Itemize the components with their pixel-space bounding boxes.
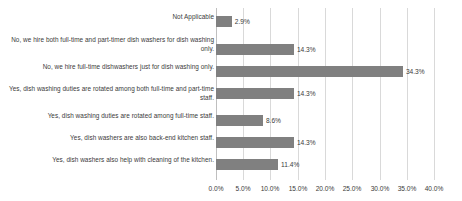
x-tick-label: 30.0%	[371, 184, 390, 194]
x-tick-label: 0.0%	[208, 184, 223, 194]
bar-row: 34.3%	[216, 66, 434, 77]
bar-value-label: 2.9%	[232, 16, 250, 27]
bar-row: 11.4%	[216, 159, 434, 170]
category-label: Yes, dish washers also help with cleanin…	[6, 156, 214, 165]
bar-value-label: 14.3%	[294, 88, 316, 99]
bar	[216, 66, 403, 77]
plot-area: 2.9% 14.3% 34.3% 14.3% 8.6% 14.3% 11.4%	[216, 8, 434, 180]
category-label: No, we hire both full-time and part-time…	[6, 36, 214, 53]
bar	[216, 44, 294, 55]
category-label: No, we hire full-time dishwashers just f…	[6, 63, 214, 72]
bar	[216, 115, 263, 126]
x-tick-label: 10.0%	[261, 184, 280, 194]
category-label: Yes, dish washing duties are rotated amo…	[6, 85, 214, 102]
gridline-40	[434, 8, 435, 180]
bar-row: 14.3%	[216, 44, 434, 55]
x-tick-label: 35.0%	[398, 184, 417, 194]
x-tick-label: 20.0%	[316, 184, 335, 194]
category-label: Yes, dish washing duties are rotated amo…	[6, 112, 214, 121]
category-axis-labels: Not Applicable No, we hire both full-tim…	[0, 0, 214, 180]
x-tick-label: 5.0%	[235, 184, 250, 194]
x-tick-label: 15.0%	[289, 184, 308, 194]
category-label: Yes, dish washers are also back-end kitc…	[6, 134, 214, 143]
bar-row: 14.3%	[216, 88, 434, 99]
x-tick-label: 25.0%	[343, 184, 362, 194]
x-axis-tick-labels: 0.0% 5.0% 10.0% 15.0% 20.0% 25.0% 30.0% …	[216, 184, 434, 198]
bar-value-label: 14.3%	[294, 44, 316, 55]
x-tick-label: 40.0%	[425, 184, 444, 194]
bar	[216, 88, 294, 99]
bar	[216, 16, 232, 27]
bar	[216, 137, 294, 148]
bar-row: 2.9%	[216, 16, 434, 27]
bar-row: 14.3%	[216, 137, 434, 148]
bar-value-label: 8.6%	[263, 115, 281, 126]
bar-row: 8.6%	[216, 115, 434, 126]
bar-value-label: 34.3%	[403, 66, 425, 77]
category-label: Not Applicable	[6, 13, 214, 22]
bar-value-label: 11.4%	[278, 159, 299, 170]
bar-value-label: 14.3%	[294, 137, 316, 148]
bar	[216, 159, 278, 170]
horizontal-bar-chart: Not Applicable No, we hire both full-tim…	[0, 0, 462, 201]
